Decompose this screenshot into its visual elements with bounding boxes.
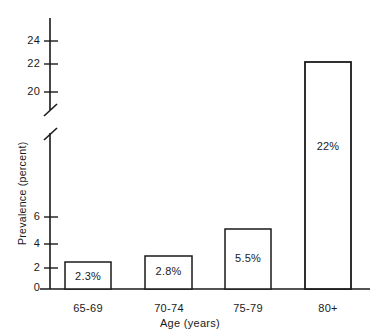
x-tick-label-80-plus: 80+ — [298, 302, 358, 314]
x-tick-label-65-69: 65-69 — [58, 302, 118, 314]
x-tick-label-70-74: 70-74 — [139, 302, 199, 314]
bar-80-plus — [305, 62, 351, 289]
x-tick-label-75-79: 75-79 — [218, 302, 278, 314]
bar-value-65-69: 2.3% — [65, 270, 111, 282]
y-tick-label-2: 2 — [10, 261, 40, 273]
x-axis-title: Age (years) — [130, 317, 250, 329]
y-tick-marks — [44, 41, 58, 268]
bar-value-80-plus: 22% — [305, 140, 351, 152]
y-tick-label-24: 24 — [10, 34, 40, 46]
bar-value-70-74: 2.8% — [145, 265, 192, 277]
chart-canvas — [0, 0, 372, 334]
y-tick-label-20: 20 — [10, 85, 40, 97]
y-tick-label-22: 22 — [10, 57, 40, 69]
bar-chart: 24 22 20 6 4 2 0 Prevalence (percent) 2.… — [0, 0, 372, 334]
y-axis-title: Prevalence (percent) — [16, 142, 28, 245]
bar-value-75-79: 5.5% — [225, 252, 271, 264]
y-tick-label-0: 0 — [10, 281, 40, 293]
